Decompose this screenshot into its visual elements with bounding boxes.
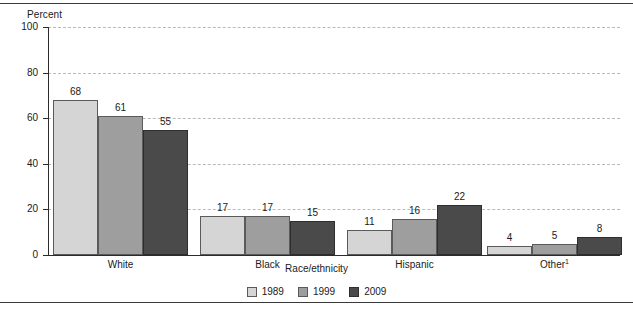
legend-item-1989: 1989 [247,287,284,297]
legend: 198919992009 [0,287,633,297]
bar-hispanic-1999 [392,219,437,255]
bar-white-1999 [98,116,143,255]
bar-white-2009 [143,130,188,255]
y-axis-title: Percent [27,9,62,20]
bar-other-1999 [532,244,577,255]
y-tick-label-40: 40 [14,159,38,169]
bar-value-black-2009: 15 [290,208,335,218]
legend-label-2009: 2009 [364,287,386,297]
bar-other-2009 [577,237,622,255]
y-tick-label-60: 60 [14,113,38,123]
bar-other-1989 [487,246,532,255]
bar-value-hispanic-2009: 22 [437,192,482,202]
legend-swatch-1999 [298,287,308,297]
bottom-rule [0,302,633,303]
bar-white-1989 [53,100,98,255]
bar-value-hispanic-1999: 16 [392,206,437,216]
bar-value-other-1989: 4 [487,233,532,243]
gridline-100 [48,27,620,28]
bar-black-1989 [200,216,245,255]
bar-value-other-2009: 8 [577,224,622,234]
legend-swatch-2009 [349,287,359,297]
legend-label-1989: 1989 [262,287,284,297]
bar-value-hispanic-1989: 11 [347,217,392,227]
bar-hispanic-2009 [437,205,482,255]
legend-swatch-1989 [247,287,257,297]
y-tick-label-80: 80 [14,68,38,78]
bar-value-white-2009: 55 [143,117,188,127]
legend-item-1999: 1999 [298,287,335,297]
bar-value-other-1999: 5 [532,231,577,241]
legend-label-1999: 1999 [313,287,335,297]
bar-black-1999 [245,216,290,255]
y-tick-label-0: 0 [14,250,38,260]
y-tick-label-100: 100 [14,22,38,32]
bar-chart-figure: Percent 100806040200 6861551717151116224… [0,0,633,310]
y-tick-label-20: 20 [14,204,38,214]
bar-hispanic-1989 [347,230,392,255]
top-rule [0,3,633,4]
legend-item-2009: 2009 [349,287,386,297]
y-axis-line [48,27,49,256]
x-axis-title: Race/ethnicity [0,263,633,274]
bar-black-2009 [290,221,335,255]
gridline-80 [48,73,620,74]
bar-value-black-1999: 17 [245,203,290,213]
x-axis-line [48,255,620,256]
bar-value-black-1989: 17 [200,203,245,213]
bar-value-white-1989: 68 [53,87,98,97]
bar-value-white-1999: 61 [98,103,143,113]
